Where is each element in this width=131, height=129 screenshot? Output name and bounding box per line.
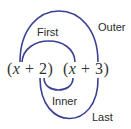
last-label: Last [92,112,113,123]
plus-operator: + [20,60,39,77]
outer-arc [20,11,98,62]
first-label: First [37,27,58,38]
binomial-2: (x + 3) [63,61,109,77]
first-arc [22,41,75,62]
close-paren: ) [103,60,109,77]
inner-label: Inner [52,96,77,107]
plus-operator: + [76,60,95,77]
binomial-1: (x + 2) [7,61,53,77]
inner-arc [44,78,73,90]
foil-diagram: First Outer (x + 2) (x + 3) Inner Last [0,0,131,129]
outer-label: Outer [98,22,126,33]
close-paren: ) [47,60,53,77]
